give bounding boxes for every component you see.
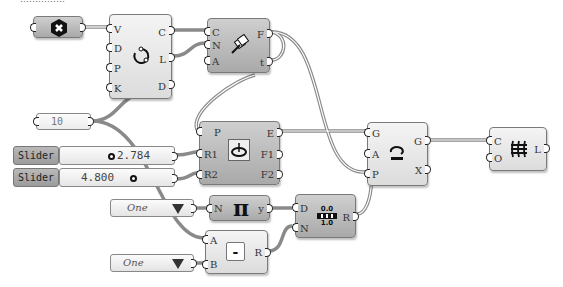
output-t: t [260, 58, 264, 68]
wires [0, 0, 563, 287]
dropdown-arrow-icon[interactable] [172, 259, 184, 269]
top-partial-text: …………… [20, 0, 65, 4]
input-c: C [494, 137, 502, 147]
input-p: P [372, 170, 379, 180]
input-p: P [114, 64, 121, 74]
input-a: A [210, 236, 217, 246]
circle-component[interactable]: V D P K C L D [109, 14, 172, 99]
pi-component[interactable]: N y π [209, 195, 270, 221]
slider-1-track[interactable]: 2.784 [59, 146, 175, 165]
range-component[interactable]: D N R 0.0 1.0 [295, 194, 356, 238]
input-o: O [494, 154, 502, 164]
input-n: N [214, 204, 223, 214]
slider-1-label: Slider [13, 146, 59, 165]
ellipse-icon [228, 139, 250, 161]
input-a: A [212, 57, 219, 67]
input-b: B [210, 260, 217, 270]
slider-2-label: Slider [13, 168, 59, 187]
output-r: R [342, 213, 350, 223]
range-icon: 0.0 1.0 [316, 203, 338, 229]
input-n: N [300, 224, 309, 234]
output-f2: F2 [261, 170, 274, 180]
input-d: D [300, 204, 308, 214]
output-l: L [159, 55, 166, 65]
output-g: G [414, 137, 422, 147]
input-k: K [114, 84, 121, 94]
output-d: D [158, 82, 166, 92]
minus-icon: - [226, 242, 245, 261]
input-n: N [212, 41, 221, 51]
input-d: D [114, 44, 122, 54]
slider-2-track[interactable]: 4.800 [59, 168, 175, 187]
input-c: C [212, 28, 220, 38]
input-g: G [372, 129, 380, 139]
perp-frames-component[interactable]: C N A F t [207, 18, 270, 73]
subtraction-component[interactable]: A B R - [205, 230, 268, 274]
slider-1-value: 2.784 [117, 149, 150, 162]
input-r1: R1 [204, 150, 218, 160]
perp-frames-icon [228, 33, 252, 57]
value-list-1[interactable]: One [110, 199, 194, 217]
hexagon-x-icon [49, 18, 69, 38]
output-y: y [258, 204, 264, 214]
output-c: C [158, 28, 166, 38]
output-f1: F1 [261, 150, 274, 160]
grasshopper-canvas[interactable]: …………… [0, 0, 563, 287]
input-p: P [214, 128, 221, 138]
slider-2[interactable]: Slider 4.800 [13, 168, 175, 187]
loft-component[interactable]: C O L [489, 127, 547, 171]
input-v: V [114, 25, 121, 35]
vector-param[interactable] [33, 16, 83, 38]
input-r2: R2 [204, 170, 218, 180]
output-l: L [534, 145, 541, 155]
output-x: X [415, 166, 422, 176]
slider-1-knob[interactable] [108, 153, 115, 160]
output-r: R [254, 248, 262, 258]
slider-2-knob[interactable] [130, 175, 137, 182]
circle-dots-icon [130, 45, 152, 67]
output-f: F [257, 30, 264, 40]
pi-icon: π [230, 196, 252, 220]
dropdown-arrow-icon[interactable] [172, 204, 184, 214]
slider-2-value: 4.800 [81, 171, 114, 184]
output-e: E [267, 129, 274, 139]
input-a: A [372, 150, 379, 160]
panel-10[interactable]: 10 [36, 113, 91, 130]
loft-icon [508, 138, 530, 160]
value-list-2[interactable]: One [110, 254, 194, 272]
slider-1[interactable]: Slider 2.784 [13, 146, 175, 165]
orient-component[interactable]: G A P G X [367, 122, 428, 186]
rotate-icon [386, 143, 408, 165]
ellipse-component[interactable]: P R1 R2 E F1 F2 [199, 121, 280, 185]
